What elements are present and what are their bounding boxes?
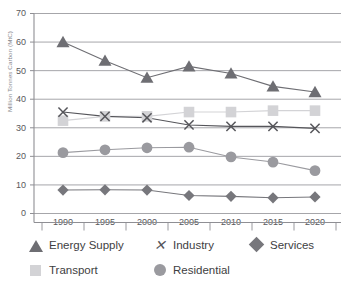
data-point-services-1990 bbox=[57, 184, 68, 195]
legend-label-residential: Residential bbox=[173, 264, 230, 276]
data-point-transport-1990 bbox=[58, 115, 69, 126]
data-point-residential-2020 bbox=[310, 165, 321, 176]
data-point-services-2020 bbox=[309, 191, 320, 202]
data-point-energy-supply-2005 bbox=[182, 60, 195, 71]
chart-legend: Energy Supply ✕ Industry Services Transp… bbox=[0, 232, 351, 286]
legend-label-services: Services bbox=[270, 239, 314, 251]
circle-marker-icon bbox=[152, 262, 168, 278]
data-point-residential-2005 bbox=[184, 142, 195, 153]
data-point-residential-2010 bbox=[226, 152, 237, 163]
triangle-marker-icon bbox=[28, 237, 44, 253]
data-point-residential-2015 bbox=[268, 157, 279, 168]
legend-item-residential[interactable]: Residential bbox=[152, 259, 230, 281]
data-point-energy-supply-2015 bbox=[266, 80, 279, 91]
legend-item-services[interactable]: Services bbox=[249, 234, 314, 256]
data-point-services-2010 bbox=[225, 191, 236, 202]
legend-item-energy-supply[interactable]: Energy Supply bbox=[28, 234, 124, 256]
plot-area: Million Tonnes Carbon (MtC) 70 60 50 40 … bbox=[0, 0, 351, 232]
data-point-services-1995 bbox=[99, 184, 110, 195]
legend-row-2: Transport Residential bbox=[0, 259, 351, 281]
data-point-transport-2020 bbox=[310, 105, 321, 116]
diamond-marker-icon bbox=[249, 237, 265, 253]
data-point-services-2005 bbox=[183, 190, 194, 201]
legend-label-industry: Industry bbox=[173, 239, 214, 251]
data-point-residential-2000 bbox=[142, 142, 153, 153]
data-point-energy-supply-1995 bbox=[98, 54, 111, 65]
data-point-residential-1990 bbox=[58, 147, 69, 158]
data-point-services-2000 bbox=[141, 184, 152, 195]
data-point-transport-2005 bbox=[184, 107, 195, 118]
legend-label-energy-supply: Energy Supply bbox=[49, 239, 124, 251]
data-point-services-2015 bbox=[267, 192, 278, 203]
data-point-transport-2015 bbox=[268, 105, 279, 116]
square-marker-icon bbox=[28, 262, 44, 278]
cross-marker-icon: ✕ bbox=[152, 237, 168, 253]
legend-row-1: Energy Supply ✕ Industry Services bbox=[0, 234, 351, 256]
data-point-residential-1995 bbox=[100, 144, 111, 155]
legend-label-transport: Transport bbox=[49, 264, 98, 276]
data-point-transport-2010 bbox=[226, 107, 237, 118]
legend-item-industry[interactable]: ✕ Industry bbox=[152, 234, 214, 256]
line-chart: Million Tonnes Carbon (MtC) 70 60 50 40 … bbox=[0, 0, 351, 286]
data-point-energy-supply-2000 bbox=[140, 72, 153, 83]
data-point-transport-2000 bbox=[142, 111, 153, 122]
data-point-energy-supply-1990 bbox=[56, 36, 69, 47]
legend-item-transport[interactable]: Transport bbox=[28, 259, 98, 281]
plot-canvas bbox=[0, 0, 351, 232]
